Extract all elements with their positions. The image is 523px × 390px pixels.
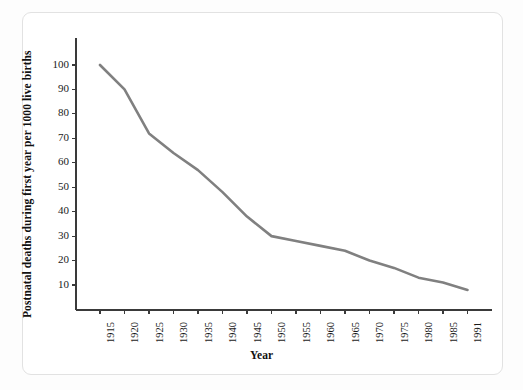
x-axis-tick-label: 1970 <box>374 322 385 343</box>
x-axis-tick-label: 1955 <box>301 322 312 343</box>
y-axis-title-wrap: Postnatal deaths during first year per 1… <box>27 18 51 318</box>
x-axis-tick-label: 1975 <box>399 322 410 343</box>
y-axis-tick-label: 50 <box>58 180 69 192</box>
x-axis-tick-label: 1940 <box>227 322 238 343</box>
x-axis-title: Year <box>0 349 523 361</box>
x-axis-tick-label: 1920 <box>129 322 140 343</box>
y-axis-tick-label: 100 <box>53 58 70 70</box>
y-axis-tick-label: 10 <box>58 278 69 290</box>
y-axis-tick-label: 30 <box>58 229 69 241</box>
y-axis-tick-label: 20 <box>58 253 69 265</box>
x-axis-tick-label: 1991 <box>472 322 483 343</box>
x-axis-tick-label: 1935 <box>203 322 214 343</box>
x-axis-tick-label: 1950 <box>276 322 287 343</box>
y-axis-tick-label: 90 <box>58 82 69 94</box>
axes-group <box>72 38 492 314</box>
x-axis-tick-label: 1960 <box>325 322 336 343</box>
y-axis-tick-label: 80 <box>58 106 69 118</box>
x-axis-tick-label: 1925 <box>154 322 165 343</box>
x-axis-tick-label: 1945 <box>252 322 263 343</box>
data-line-postnatal-deaths <box>100 65 468 290</box>
figure-root: Postnatal deaths during first year per 1… <box>0 0 523 390</box>
x-axis-tick-label: 1980 <box>423 322 434 343</box>
x-axis-tick-label: 1930 <box>178 322 189 343</box>
x-axis-tick-label: 1985 <box>448 322 459 343</box>
y-axis-tick-label: 40 <box>58 204 69 216</box>
data-series-group <box>100 65 468 290</box>
y-axis-title: Postnatal deaths during first year per 1… <box>21 50 33 318</box>
y-axis-tick-label: 60 <box>58 155 69 167</box>
x-axis-tick-label: 1965 <box>350 322 361 343</box>
x-axis-tick-label: 1915 <box>105 322 116 343</box>
y-axis-tick-label: 70 <box>58 131 69 143</box>
